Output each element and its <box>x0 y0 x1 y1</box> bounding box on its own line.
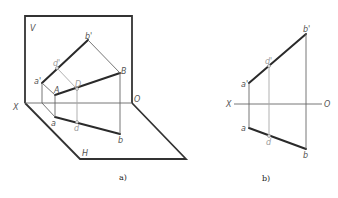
label-b-prime-b: b' <box>303 25 310 34</box>
label-b: b <box>118 136 123 145</box>
label-d-prime: d' <box>53 59 60 68</box>
label-a-prime-b: a' <box>241 80 248 89</box>
label-a-b: a <box>241 124 246 133</box>
label-b-prime: b' <box>85 32 92 41</box>
label-V: V <box>30 24 36 33</box>
figure-a: V H X O a' b' d' A B D a b d a) <box>12 16 186 182</box>
label-d: d <box>74 124 80 133</box>
caption-a: a) <box>119 173 127 182</box>
label-D: D <box>75 80 81 89</box>
line-a-b <box>55 117 120 134</box>
point-d-b <box>268 135 271 138</box>
line-a-b-b <box>249 128 306 149</box>
figure-b: X O a' b' d' a b d b) <box>225 25 330 183</box>
label-O-b: O <box>324 100 330 109</box>
label-b-b: b <box>303 151 308 160</box>
projector-b-prime-B <box>88 40 120 73</box>
caption-b: b) <box>262 174 270 183</box>
label-A: A <box>53 86 59 95</box>
label-X-b: X <box>225 100 232 109</box>
label-d-b: d <box>266 138 272 147</box>
label-B: B <box>121 67 127 76</box>
label-a: a <box>51 119 56 128</box>
diagram-canvas: V H X O a' b' d' A B D a b d a) <box>0 0 338 198</box>
line-a-prime-b-prime-b <box>249 34 306 83</box>
label-O: O <box>134 95 140 104</box>
projector-axis-a <box>42 103 55 117</box>
projection-diagram: V H X O a' b' d' A B D a b d a) <box>0 0 338 198</box>
projector-d-prime-D <box>57 68 77 89</box>
label-X: X <box>12 103 19 112</box>
label-d-prime-b: d' <box>265 57 272 66</box>
label-a-prime: a' <box>34 77 41 86</box>
label-H: H <box>82 149 88 158</box>
point-d <box>76 121 79 124</box>
